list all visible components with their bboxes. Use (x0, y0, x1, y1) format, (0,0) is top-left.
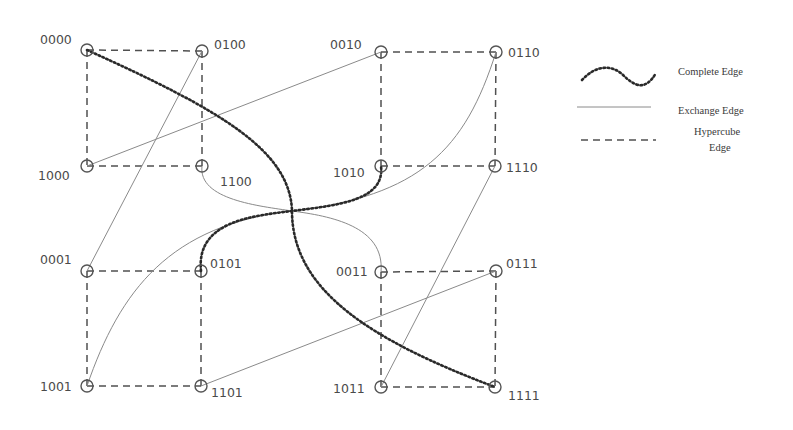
node-label-1100: 1100 (220, 174, 252, 189)
complete-edges (87, 50, 495, 387)
node-label-0101: 0101 (210, 256, 242, 271)
node-label-0011: 0011 (336, 264, 368, 279)
node-label-1111: 1111 (508, 388, 540, 403)
node-label-0001: 0001 (40, 252, 72, 267)
node-label-0110: 0110 (508, 45, 540, 60)
node-label-0100: 0100 (214, 37, 246, 52)
legend-exchange-edge-label: Exchange Edge (678, 105, 744, 116)
node-label-1000: 1000 (38, 168, 70, 183)
hypercube-edge-0110-1110 (495, 52, 496, 166)
node-label-1011: 1011 (333, 381, 365, 396)
legend-hypercube-edge-label-line1: Hypercube (694, 126, 740, 137)
node-label-0111: 0111 (506, 256, 538, 271)
hypercube-edge-0000-0100 (87, 50, 202, 51)
legend: Complete Edge Exchange Edge Hypercube Ed… (577, 66, 744, 153)
node-label-0010: 0010 (330, 37, 362, 52)
exchange-edge-1101-0111 (201, 271, 496, 386)
node-label-1101: 1101 (211, 385, 243, 400)
hypercube-network-diagram: 0000010010001100001001101010111000010101… (0, 0, 793, 430)
complete-edge-0000-1111 (87, 50, 495, 387)
hypercube-edge-0011-0111 (381, 271, 496, 272)
exchange-edge-1001-0110 (87, 52, 496, 386)
node-label-1010: 1010 (333, 165, 365, 180)
node-label-1001: 1001 (40, 379, 72, 394)
node-label-1110: 1110 (506, 160, 538, 175)
legend-complete-edge-swatch (582, 68, 656, 85)
exchange-edges (87, 51, 496, 387)
exchange-edge-1110-1011 (381, 166, 495, 387)
legend-complete-edge-label: Complete Edge (678, 66, 743, 77)
node-label-0000: 0000 (40, 32, 72, 47)
exchange-edge-0100-0001 (87, 51, 202, 271)
legend-hypercube-edge-label-line2: Edge (709, 142, 731, 153)
hypercube-edge-0111-1111 (495, 271, 496, 387)
